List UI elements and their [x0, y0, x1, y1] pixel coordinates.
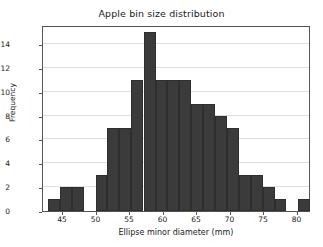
x-tick-mark	[196, 212, 197, 215]
x-tick-mark	[163, 212, 164, 215]
histogram-bar	[215, 116, 226, 211]
x-tick-mark	[96, 212, 97, 215]
y-tick-label: 2	[0, 183, 10, 192]
histogram-bar	[239, 175, 251, 211]
histogram-bar	[72, 187, 84, 211]
x-tick-mark	[62, 212, 63, 215]
plot-area	[42, 26, 310, 212]
histogram-bar	[167, 80, 179, 211]
histogram-bar	[203, 104, 215, 211]
y-tick-label: 10	[0, 88, 10, 97]
histogram-bar	[191, 104, 203, 211]
histogram-bar	[263, 187, 275, 211]
histogram-bar	[144, 32, 156, 211]
y-axis-label: Frequency	[8, 68, 17, 138]
y-tick-label: 14	[0, 40, 10, 49]
bars-layer	[43, 27, 309, 211]
histogram-bar	[227, 128, 239, 211]
y-tick-mark	[39, 212, 42, 213]
y-tick-label: 6	[0, 135, 10, 144]
y-tick-mark	[39, 45, 42, 46]
histogram-bar	[60, 187, 72, 211]
histogram-bar	[96, 175, 107, 211]
x-tick-mark	[129, 212, 130, 215]
histogram-bar	[107, 128, 119, 211]
y-tick-mark	[39, 140, 42, 141]
histogram-bar	[251, 175, 263, 211]
x-tick-label: 80	[277, 215, 317, 224]
x-axis-label: Ellipse minor diameter (mm)	[42, 228, 310, 237]
histogram-bar	[275, 199, 286, 211]
y-tick-label: 12	[0, 64, 10, 73]
y-tick-mark	[39, 164, 42, 165]
chart-title: Apple bin size distribution	[0, 8, 323, 19]
histogram-bar	[156, 80, 167, 211]
y-tick-mark	[39, 188, 42, 189]
y-tick-label: 8	[0, 112, 10, 121]
y-tick-mark	[39, 93, 42, 94]
histogram-figure: Apple bin size distribution Frequency El…	[0, 0, 323, 247]
histogram-bar	[131, 80, 143, 211]
histogram-bar	[119, 128, 131, 211]
y-tick-label: 4	[0, 159, 10, 168]
x-tick-mark	[297, 212, 298, 215]
y-tick-label: 0	[0, 207, 10, 216]
y-tick-mark	[39, 117, 42, 118]
histogram-bar	[298, 199, 310, 211]
y-tick-mark	[39, 69, 42, 70]
histogram-bar	[179, 80, 191, 211]
x-tick-mark	[263, 212, 264, 215]
x-tick-mark	[230, 212, 231, 215]
histogram-bar	[48, 199, 60, 211]
